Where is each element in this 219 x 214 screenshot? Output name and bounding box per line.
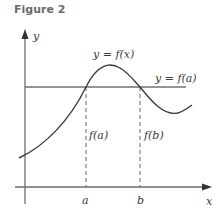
horizontal-line-label: y = f(a) (154, 72, 197, 85)
b-tick-label: b (137, 194, 144, 207)
curve-label: y = f(x) (92, 48, 134, 61)
rolle-theorem-diagram: y y = f(x) y = f(a) f(a) f(b) a b x (0, 0, 219, 214)
x-axis-label: x (206, 195, 213, 208)
x-axis-arrow-icon (202, 184, 212, 191)
a-tick-label: a (82, 194, 89, 207)
fa-label: f(a) (88, 129, 108, 142)
y-axis-label: y (32, 30, 40, 43)
y-axis-arrow-icon (22, 29, 29, 39)
fb-label: f(b) (143, 129, 164, 142)
